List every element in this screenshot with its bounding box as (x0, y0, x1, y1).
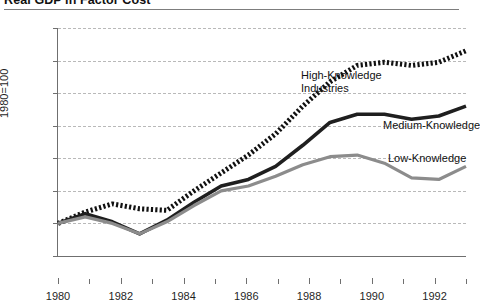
series-line (58, 155, 466, 234)
x-tick-label: 1982 (109, 290, 133, 302)
x-tick-label: 1990 (360, 290, 384, 302)
x-tick-label: 1992 (422, 290, 446, 302)
x-tick-label: 1986 (234, 290, 258, 302)
series-line (58, 106, 466, 234)
x-tick-label: 1984 (171, 290, 195, 302)
series-line (58, 51, 466, 224)
x-tick-label: 1980 (46, 290, 70, 302)
x-tick-label: 1988 (297, 290, 321, 302)
